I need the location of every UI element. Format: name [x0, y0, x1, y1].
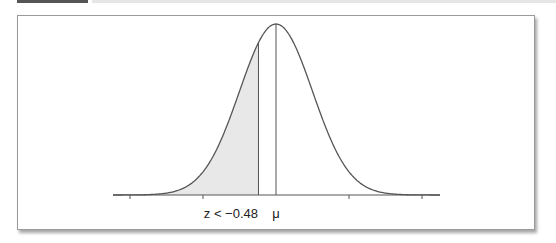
- axis-ticks: [130, 195, 422, 199]
- z-cutoff-label: z < −0.48: [204, 206, 258, 221]
- mean-label: μ: [272, 206, 280, 221]
- normal-curve-diagram: z < −0.48 μ: [0, 0, 556, 243]
- shaded-left-tail: [113, 43, 258, 195]
